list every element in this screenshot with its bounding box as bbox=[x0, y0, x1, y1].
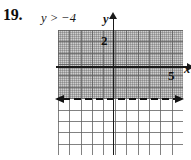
boundary-arrow-right-icon bbox=[175, 95, 184, 103]
y-axis-label: y bbox=[103, 12, 109, 27]
inequality-graph-figure: 19. y > −4 2 5 y x bbox=[0, 0, 191, 160]
y-axis-tick-label: 2 bbox=[101, 33, 108, 49]
x-axis-tick-label: 5 bbox=[168, 68, 175, 84]
dashed-boundary-line bbox=[63, 98, 178, 100]
inequality-expression: y > −4 bbox=[41, 11, 76, 26]
coordinate-plane: 2 5 bbox=[58, 30, 183, 155]
x-axis-label: x bbox=[184, 62, 190, 77]
shaded-solution-region bbox=[58, 30, 183, 99]
y-axis-line bbox=[113, 17, 115, 155]
y-axis-arrow-icon bbox=[109, 12, 117, 19]
problem-number: 19. bbox=[3, 6, 22, 24]
boundary-arrow-left-icon bbox=[55, 95, 64, 103]
